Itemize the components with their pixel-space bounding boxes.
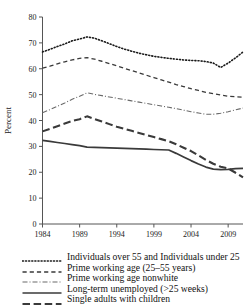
series-line-2 [43,93,244,114]
y-tick-label: 10 [29,194,37,203]
legend-item: Individuals over 55 and Individuals unde… [22,252,249,263]
legend-swatch-dotted [22,252,62,262]
x-tick-label: 1999 [146,230,162,239]
y-tick-label: 80 [29,13,37,22]
x-tick-label: 1994 [109,230,125,239]
legend-item: Single adults with children [22,294,249,305]
x-tick-label: 1984 [35,230,51,239]
y-tick-label: 40 [29,117,37,126]
y-tick-label: 30 [29,142,37,151]
x-tick-label: 1989 [72,230,88,239]
chart-plot-area: 0102030405060708019841989199419992004200… [0,0,249,250]
chart-legend: Individuals over 55 and Individuals unde… [22,252,249,305]
y-tick-label: 50 [29,91,37,100]
legend-swatch-longdash [22,295,62,305]
series-line-0 [43,37,244,68]
y-axis-title: Percent [3,107,13,134]
y-tick-label: 0 [33,220,37,229]
legend-swatch-dashdot [22,273,62,283]
y-tick-label: 60 [29,65,37,74]
y-tick-label: 20 [29,168,37,177]
legend-label: Individuals over 55 and Individuals unde… [67,252,240,262]
figure: 0102030405060708019841989199419992004200… [0,0,249,305]
legend-label: Single adults with children [67,294,170,304]
x-tick-label: 2009 [220,230,236,239]
y-tick-label: 70 [29,39,37,48]
series-line-3 [43,140,244,169]
x-tick-label: 2004 [183,230,199,239]
line-chart: 0102030405060708019841989199419992004200… [0,0,249,250]
legend-swatch-solid [22,284,62,294]
legend-swatch-dashed [22,263,62,273]
